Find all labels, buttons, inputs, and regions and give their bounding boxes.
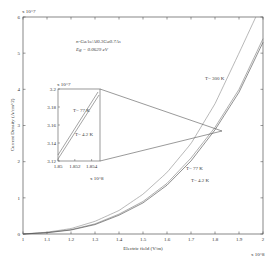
bandgap-annotation: Eg = 0.0629 eV: [75, 47, 109, 52]
inset-x-tick-label: 1.852: [69, 164, 81, 169]
inset-y-tick-label: 3.2: [50, 87, 57, 92]
y-tick-label: 3: [18, 123, 21, 128]
zoom-connector-bottom: [100, 131, 222, 161]
x-tick-label: 1.4: [116, 237, 123, 242]
y-tick-label: 5: [18, 51, 21, 56]
x-tick-label: 2: [262, 237, 265, 242]
x-tick-label: 1.8: [212, 237, 219, 242]
inset-plot: x 10^7 3.123.143.163.183.2 1.851.8521.85…: [47, 82, 104, 181]
x-tick-label: 1.9: [236, 237, 243, 242]
x-axis-label: Electric field (V/m): [123, 246, 163, 251]
x-tick-label: 1.6: [164, 237, 171, 242]
y-tick-label: 4: [18, 87, 21, 92]
inset-x-tick-label: 1.854: [86, 164, 98, 169]
x-tick-label: 1.5: [140, 237, 147, 242]
label-300k: T= 300 K: [205, 76, 225, 81]
y-tick-label: 2: [18, 159, 21, 164]
inset-y-tick-label: 3.18: [47, 105, 56, 110]
x-tick-label: 1.7: [188, 237, 195, 242]
label-42k: T= 4.2 K: [191, 178, 210, 183]
inset-y-multiplier: x 10^7: [57, 82, 71, 87]
y-tick-label: 1: [18, 196, 21, 201]
inset-y-tick-label: 3.16: [47, 123, 56, 128]
x-tick-label: 1.1: [44, 237, 51, 242]
inset-y-tick-label: 3.14: [47, 141, 56, 146]
inset-label-77k: T= 77 K: [73, 108, 90, 113]
zoom-connector-top: [100, 89, 222, 131]
x-tick-label: 1.3: [92, 237, 99, 242]
y-tick-label: 6: [18, 15, 21, 20]
y-tick-label: 0: [18, 232, 21, 237]
y-multiplier: x 10^7: [22, 9, 36, 14]
inset-label-42k: T= 4.2 K: [75, 132, 94, 137]
x-tick-label: 1: [22, 237, 25, 242]
material-annotation: n-GaAs/Al0.3Ga0.7As: [76, 39, 121, 44]
inset-x-multiplier: x 10^8: [90, 176, 104, 181]
label-77k: T= 77 K: [186, 166, 203, 171]
x-tick-label: 1.2: [68, 237, 75, 242]
inset-x-tick-label: 1.85: [54, 164, 63, 169]
x-multiplier: x 10^8: [251, 252, 265, 257]
y-axis-label: Current Density (A/cm^2): [10, 98, 15, 151]
inset-frame: [58, 89, 100, 161]
chart-figure: x 10^7 0123456 11.11.21.31.41.51.61.71.8…: [0, 0, 276, 266]
